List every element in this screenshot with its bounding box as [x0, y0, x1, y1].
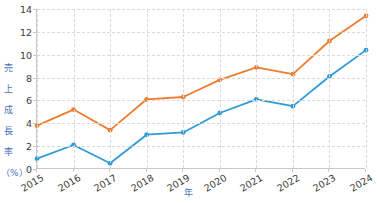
- gridline-horizontal: [37, 100, 365, 101]
- y-tick-label: 2: [14, 141, 32, 152]
- y-tick-label: 0: [14, 164, 32, 175]
- y-axis-title-char: 率: [1, 147, 15, 158]
- x-tick-mark: [182, 169, 183, 172]
- gridline-horizontal: [37, 146, 365, 147]
- gridline-vertical: [366, 9, 367, 168]
- gridline-vertical: [37, 9, 38, 168]
- x-tick-mark: [73, 169, 74, 172]
- line-chart: 売 上 成 長 率 （%） 年 024681012142015201620172…: [0, 0, 377, 203]
- y-tick-label: 4: [14, 118, 32, 129]
- x-tick-mark: [146, 169, 147, 172]
- gridline-horizontal: [37, 32, 365, 33]
- gridline-vertical: [74, 9, 75, 168]
- gridline-vertical: [147, 9, 148, 168]
- y-axis-title-char: 売: [1, 63, 15, 74]
- gridline-vertical: [293, 9, 294, 168]
- x-tick-mark: [255, 169, 256, 172]
- y-tick-mark: [33, 123, 36, 124]
- y-axis-title-unit: （%）: [1, 168, 15, 179]
- y-tick-mark: [33, 32, 36, 33]
- x-tick-mark: [109, 169, 110, 172]
- gridline-vertical: [256, 9, 257, 168]
- series-line: [37, 16, 366, 130]
- y-tick-label: 8: [14, 72, 32, 83]
- series-layer: [37, 9, 366, 169]
- gridline-vertical: [110, 9, 111, 168]
- y-tick-label: 12: [14, 26, 32, 37]
- y-tick-mark: [33, 100, 36, 101]
- y-tick-label: 6: [14, 95, 32, 106]
- plot-area: [36, 9, 365, 169]
- y-axis-title-char: 上: [1, 84, 15, 95]
- y-tick-mark: [33, 78, 36, 79]
- gridline-horizontal: [37, 123, 365, 124]
- y-axis-title: 売 上 成 長 率 （%）: [1, 52, 15, 189]
- y-axis-title-char: 成: [1, 105, 15, 116]
- y-axis-title-char: 長: [1, 126, 15, 137]
- x-tick-mark: [328, 169, 329, 172]
- y-tick-label: 10: [14, 49, 32, 60]
- y-tick-mark: [33, 55, 36, 56]
- x-tick-mark: [36, 169, 37, 172]
- gridline-vertical: [220, 9, 221, 168]
- gridline-horizontal: [37, 78, 365, 79]
- gridline-horizontal: [37, 55, 365, 56]
- x-tick-mark: [292, 169, 293, 172]
- x-tick-mark: [365, 169, 366, 172]
- gridline-vertical: [183, 9, 184, 168]
- y-tick-mark: [33, 146, 36, 147]
- y-tick-mark: [33, 9, 36, 10]
- gridline-vertical: [329, 9, 330, 168]
- y-tick-label: 14: [14, 4, 32, 15]
- gridline-horizontal: [37, 9, 365, 10]
- plot-inner: [37, 9, 365, 168]
- x-tick-mark: [219, 169, 220, 172]
